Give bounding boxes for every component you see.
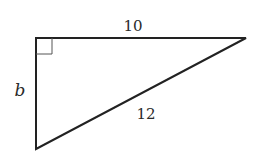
top-side-label: 10 [123,17,142,35]
hypotenuse-label: 12 [136,105,155,123]
right-angle-marker [36,38,52,54]
right-triangle [36,38,246,149]
left-side-label: b [15,80,26,100]
triangle-diagram: 10 12 b [0,0,263,153]
triangle-svg: 10 12 b [0,0,263,153]
